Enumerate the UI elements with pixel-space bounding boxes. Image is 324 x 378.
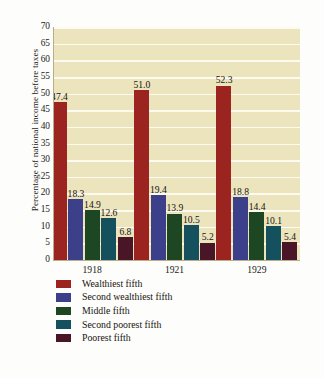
x-tick-label: 1921 [165,264,184,275]
x-tick-label: 1918 [83,264,102,275]
bar-group: 51.019.413.910.55.2 [134,27,215,260]
y-tick-label: 30 [28,155,50,164]
bar-value-label: 12.6 [101,207,118,218]
y-tick-label: 25 [28,172,50,181]
bar-value-label: 14.4 [249,201,266,212]
bar-value-label: 13.9 [166,202,183,213]
bar[interactable]: 5.4 [282,242,297,260]
y-tick-label: 0 [28,255,50,264]
bar-value-label: 18.3 [68,188,85,199]
bar-group: 47.418.314.912.66.8 [53,27,133,260]
y-tick-label: 60 [28,56,50,65]
bar-value-label: 10.5 [183,214,200,225]
bar[interactable]: 14.9 [85,210,100,260]
bar[interactable]: 6.8 [118,237,133,260]
y-tick-label: 5 [28,239,50,248]
bar-value-label: 18.8 [232,186,249,197]
bar[interactable]: 52.3 [216,86,231,260]
bar[interactable]: 5.2 [200,243,215,260]
bar[interactable]: 14.4 [249,212,264,260]
chart-figure: Percentage of national income before tax… [0,0,324,378]
legend-swatch [56,320,71,329]
legend-swatch [56,334,71,343]
bar-value-label: 10.1 [265,215,282,226]
y-tick-label: 40 [28,122,50,131]
chart-legend: Wealthiest fifthSecond wealthiest fifthM… [56,277,286,345]
legend-label: Poorest fifth [82,333,131,343]
bar[interactable]: 51.0 [134,90,149,260]
bar-value-label: 6.8 [119,226,131,237]
bar[interactable]: 13.9 [167,214,182,260]
legend-label: Wealthiest fifth [82,279,142,289]
x-axis-tick-labels: 191819211929 [53,264,300,278]
y-tick-label: 35 [28,139,50,148]
y-tick-label: 55 [28,72,50,81]
bar-value-label: 14.9 [84,199,101,210]
legend-label: Middle fifth [82,306,130,316]
bar[interactable]: 47.4 [53,102,67,260]
bar-group: 52.318.814.410.15.4 [216,27,297,260]
legend-label: Second poorest fifth [82,320,161,330]
y-axis-tick-labels: 7065605550454035302520151050 [28,27,50,260]
bar-value-label: 19.4 [150,184,167,195]
bar[interactable]: 10.1 [266,226,281,260]
bar[interactable]: 10.5 [184,225,199,260]
plot-area: 47.418.314.912.66.851.019.413.910.55.252… [53,27,300,260]
bar-value-label: 52.3 [216,74,233,85]
bar-value-label: 5.4 [284,231,296,242]
bar-value-label: 51.0 [133,79,150,90]
x-tick-label: 1929 [247,264,266,275]
legend-item[interactable]: Wealthiest fifth [56,277,286,291]
y-tick-label: 70 [28,22,50,31]
bar[interactable]: 18.3 [68,199,83,260]
legend-item[interactable]: Second wealthiest fifth [56,291,286,305]
y-tick-label: 15 [28,205,50,214]
x-axis-line [53,260,300,261]
y-tick-label: 20 [28,189,50,198]
legend-item[interactable]: Middle fifth [56,304,286,318]
y-tick-label: 50 [28,89,50,98]
y-axis-line [53,27,54,260]
bars-layer: 47.418.314.912.66.851.019.413.910.55.252… [53,27,300,260]
bar[interactable]: 19.4 [151,195,166,260]
y-tick-label: 10 [28,222,50,231]
legend-swatch [56,280,71,289]
legend-swatch [56,307,71,316]
bar[interactable]: 12.6 [101,218,116,260]
legend-label: Second wealthiest fifth [82,292,172,302]
legend-item[interactable]: Second poorest fifth [56,318,286,332]
y-tick-label: 65 [28,39,50,48]
legend-item[interactable]: Poorest fifth [56,331,286,345]
bar-value-label: 5.2 [202,231,214,242]
y-tick-label: 45 [28,106,50,115]
bar[interactable]: 18.8 [233,197,248,260]
legend-swatch [56,293,71,302]
bar-value-label: 47.4 [53,91,68,102]
